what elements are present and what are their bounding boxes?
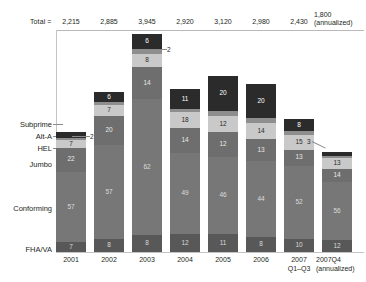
- segment-2006-fha-va: 8: [246, 237, 276, 252]
- segment-value-label: 8: [145, 57, 149, 64]
- segment-2005-subprime: 20: [208, 76, 238, 111]
- segment-value-label: 7: [69, 244, 73, 251]
- segment-value-label: 8: [297, 122, 301, 129]
- stacked-bar-chart: Total = 2,215 2,885 3,945 2,920 3,120 2,…: [0, 0, 366, 282]
- segment-2004-fha-va: 12: [170, 234, 200, 252]
- segment-2004-jumbo: 14: [170, 128, 200, 152]
- segment-value-label: 56: [333, 208, 340, 215]
- segment-value-label: 46: [219, 192, 226, 199]
- segment-2003-subprime: 6: [132, 34, 162, 49]
- segment-value-label: 14: [181, 137, 188, 144]
- segment-2003-jumbo: 14: [132, 67, 162, 100]
- x-label-2001: 2001: [56, 256, 86, 265]
- x-label-2003-line1: 2003: [132, 256, 162, 265]
- category-label-subprime: Subprime: [0, 120, 52, 129]
- category-label-alt-a: Alt-A: [0, 132, 52, 141]
- total-row-label: Total =: [30, 18, 52, 25]
- segment-value-label: 22: [67, 156, 74, 163]
- total-rule: [56, 30, 364, 31]
- x-label-2005: 2005: [208, 256, 238, 265]
- x-label-2007q4-line1: 2007Q4: [316, 256, 366, 265]
- total-value-2007q4: 1,800 (annualized): [314, 11, 364, 27]
- segment-value-label: 49: [181, 190, 188, 197]
- x-label-2007q1q3-line2: Q1–Q3: [284, 265, 314, 274]
- segment-value-label: 13: [257, 147, 264, 154]
- segment-value-label: 62: [143, 164, 150, 171]
- bar-2003: 6814628: [132, 34, 162, 252]
- segment-2002-subprime: 6: [94, 92, 124, 102]
- segment-value-label: 18: [181, 117, 188, 124]
- segment-value-label: 6: [145, 38, 149, 45]
- segment-2006-conforming: 44: [246, 161, 276, 237]
- segment-2006-jumbo: 13: [246, 139, 276, 161]
- segment-2005-jumbo: 12: [208, 132, 238, 157]
- x-label-2002-line1: 2002: [94, 256, 124, 265]
- segment-value-label: 14: [257, 128, 264, 135]
- segment-value-label: 7: [107, 107, 111, 114]
- segment-2007q4-annualized-hel: 13: [322, 158, 352, 169]
- bar-2006: 201413448: [246, 84, 276, 252]
- segment-value-label: 12: [219, 121, 226, 128]
- x-label-2002: 2002: [94, 256, 124, 265]
- segment-value-label: 10: [295, 242, 302, 249]
- segment-2006-hel: 14: [246, 123, 276, 140]
- x-label-2004-line1: 2004: [170, 256, 200, 265]
- x-label-2006-line1: 2006: [246, 256, 276, 265]
- bar-2005: 2012124611: [208, 76, 238, 252]
- bar-2004: 1118144912: [170, 89, 200, 252]
- segment-2007-q1-q3-fha-va: 10: [284, 239, 314, 252]
- total-value-2002: 2,885: [94, 18, 124, 25]
- segment-2001-jumbo: 22: [56, 148, 86, 172]
- segment-value-label: 57: [67, 204, 74, 211]
- segment-value-label: 20: [257, 98, 264, 105]
- segment-2007-q1-q3-subprime: 8: [284, 119, 314, 131]
- segment-value-label: 20: [105, 127, 112, 134]
- total-value-2001: 2,215: [56, 18, 86, 25]
- x-label-2007q1q3-line1: 2007: [284, 256, 314, 265]
- callout-leader-2003: [148, 49, 167, 50]
- total-value-2007q1q3: 2,430: [284, 18, 314, 25]
- segment-value-label: 12: [219, 141, 226, 148]
- x-label-2007q4: 2007Q4 (annualized): [316, 256, 366, 273]
- segment-2003-fha-va: 8: [132, 235, 162, 252]
- segment-2002-conforming: 57: [94, 145, 124, 239]
- segment-2001-conforming: 57: [56, 172, 86, 243]
- x-label-2004: 2004: [170, 256, 200, 265]
- category-label-fha-va: FHA/VA: [0, 245, 52, 254]
- segment-value-label: 14: [333, 172, 340, 179]
- total-value-2005: 3,120: [208, 18, 238, 25]
- x-label-2005-line1: 2005: [208, 256, 238, 265]
- callout-2003-alt-a: 2: [167, 46, 171, 53]
- total-value-2007q4-line2: (annualized): [314, 19, 364, 27]
- segment-2007-q1-q3-conforming: 52: [284, 166, 314, 239]
- x-label-2001-line1: 2001: [56, 256, 86, 265]
- segment-2004-hel: 18: [170, 112, 200, 128]
- segment-2007q4-annualized-jumbo: 14: [322, 169, 352, 182]
- bar-2007q4-annualized: 13145612: [322, 152, 352, 252]
- segment-value-label: 6: [107, 94, 111, 101]
- bar-2002: 6720578: [94, 92, 124, 252]
- leader-line-subprime: [53, 124, 63, 125]
- segment-value-label: 15: [295, 139, 302, 146]
- segment-2001-hel: 7: [56, 140, 86, 147]
- segment-value-label: 11: [182, 96, 189, 103]
- segment-value-label: 52: [295, 199, 302, 206]
- segment-2007q4-annualized-fha-va: 12: [322, 240, 352, 252]
- category-label-hel: HEL: [0, 144, 52, 153]
- total-value-2004: 2,920: [170, 18, 200, 25]
- x-label-2003: 2003: [132, 256, 162, 265]
- segment-2006-subprime: 20: [246, 84, 276, 118]
- segment-value-label: 13: [295, 154, 302, 161]
- callout-leader-2001: [72, 136, 90, 137]
- segment-value-label: 13: [333, 160, 340, 167]
- segment-value-label: 14: [143, 80, 150, 87]
- segment-2002-hel: 7: [94, 105, 124, 116]
- segment-value-label: 12: [181, 240, 188, 247]
- segment-2004-subprime: 11: [170, 89, 200, 109]
- segment-value-label: 8: [145, 240, 149, 247]
- callout-2007q4-subprime: 3: [307, 138, 311, 145]
- segment-value-label: 8: [107, 242, 111, 249]
- x-label-2007q4-line2: (annualized): [316, 265, 366, 274]
- x-axis-baseline: [56, 252, 364, 253]
- total-value-2007q4-line1: 1,800: [314, 11, 364, 19]
